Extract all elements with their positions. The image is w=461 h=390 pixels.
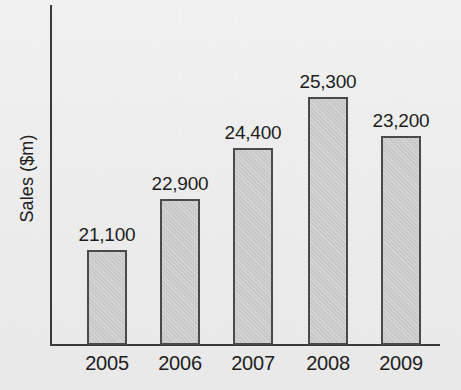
y-axis-title: Sales ($m) (17, 119, 38, 239)
bar-value-label-2009: 23,200 (351, 110, 451, 132)
bar-value-label-2006: 22,900 (130, 173, 230, 195)
bar-value-label-2008: 25,300 (278, 71, 378, 93)
bar-2006 (160, 199, 200, 345)
y-axis-line (50, 5, 52, 346)
x-axis-label-2009: 2009 (351, 352, 451, 375)
bar-value-label-2005: 21,100 (57, 224, 157, 246)
bar-chart: Sales ($m) 21,100 2005 22,900 2006 24,40… (0, 0, 461, 390)
bar-2009 (381, 136, 421, 345)
bar-2007 (233, 148, 273, 345)
bar-value-label-2007: 24,400 (203, 122, 303, 144)
bar-2008 (308, 97, 348, 345)
bar-2005 (87, 250, 127, 345)
